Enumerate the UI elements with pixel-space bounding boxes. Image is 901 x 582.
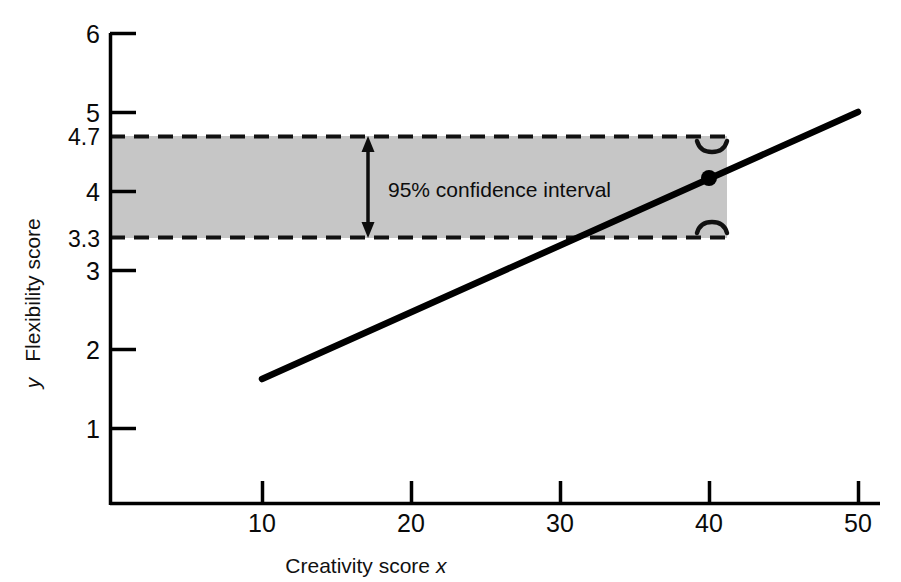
chart-figure: 6 5 4.7 4 3.3 3 2 1 10 20 30 40 50 95% c… — [0, 0, 901, 582]
x-tick-label-20: 20 — [397, 509, 425, 537]
y-axis-title-text: Flexibility score — [21, 218, 44, 362]
x-tick-label-10: 10 — [248, 509, 276, 537]
y-tick-label-4: 4 — [86, 178, 100, 206]
x-tick-label-40: 40 — [695, 509, 723, 537]
x-axis-title: Creativity score x — [285, 554, 448, 577]
y-tick-label-4-7: 4.7 — [68, 124, 100, 150]
y-tick-label-6: 6 — [86, 20, 100, 48]
y-axis-title-variable: y — [21, 376, 44, 390]
x-tick-label-30: 30 — [546, 509, 574, 537]
y-tick-label-1: 1 — [86, 415, 100, 443]
predicted-mean-point-marker — [701, 170, 717, 186]
x-axis-title-text: Creativity score — [285, 554, 430, 577]
y-tick-label-2: 2 — [86, 336, 100, 364]
y-tick-label-3: 3 — [86, 257, 100, 285]
y-tick-label-3-3: 3.3 — [68, 226, 100, 252]
y-tick-label-5: 5 — [86, 99, 100, 127]
x-tick-label-50: 50 — [844, 509, 872, 537]
chart-canvas: 6 5 4.7 4 3.3 3 2 1 10 20 30 40 50 95% c… — [0, 0, 901, 582]
x-axis-title-variable: x — [435, 554, 448, 577]
ci-annotation-label: 95% confidence interval — [388, 178, 611, 201]
